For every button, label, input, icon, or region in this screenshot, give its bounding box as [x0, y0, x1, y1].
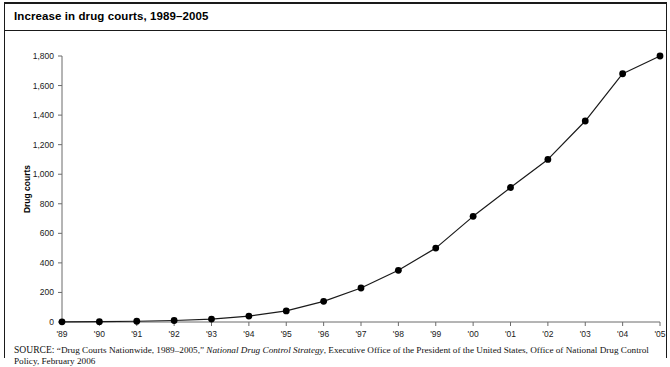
data-point-marker: [395, 267, 402, 274]
y-axis-tick-label: 400: [40, 258, 54, 268]
data-point-marker: [283, 308, 290, 315]
x-axis-tick-label: '02: [542, 329, 553, 339]
data-point-marker: [358, 285, 365, 292]
y-axis-title: Drug courts: [22, 165, 32, 213]
y-axis-tick-label: 1,200: [33, 140, 55, 150]
x-axis-tick-label: '03: [580, 329, 591, 339]
x-axis-tick-label: '01: [505, 329, 516, 339]
data-point-marker: [544, 156, 551, 163]
data-point-marker: [432, 245, 439, 252]
line-chart-svg: 02004006008001,0001,2001,4001,6001,800 '…: [0, 0, 670, 345]
data-point-marker: [619, 70, 626, 77]
data-point-marker: [96, 318, 103, 325]
x-axis-tick-label: '98: [393, 329, 404, 339]
x-axis-tick-label: '96: [318, 329, 329, 339]
x-axis-tick-label: '99: [430, 329, 441, 339]
data-point-marker: [59, 318, 66, 325]
source-publication-title: National Drug Control Strategy: [206, 345, 323, 355]
x-axis-tick-label: '05: [654, 329, 665, 339]
x-axis-tick-label: '93: [206, 329, 217, 339]
data-point-marker: [133, 318, 140, 325]
y-axis-tick-label: 1,600: [33, 81, 55, 91]
x-axis-tick-label: '95: [281, 329, 292, 339]
data-point-marker: [582, 118, 589, 125]
y-axis-tick-label: 1,000: [33, 169, 55, 179]
y-axis-tick-label: 1,400: [33, 110, 55, 120]
x-axis-tick-label: '04: [617, 329, 628, 339]
x-axis-tick-label: '97: [355, 329, 366, 339]
x-axis-tick-label: '92: [169, 329, 180, 339]
x-axis-tick-label: '91: [131, 329, 142, 339]
x-axis-tick-label: '94: [243, 329, 254, 339]
source-text-pre: “Drug Courts Nationwide, 1989–2005,”: [55, 345, 207, 355]
data-point-marker: [320, 298, 327, 305]
source-note: SOURCE: “Drug Courts Nationwide, 1989–20…: [14, 344, 662, 367]
y-axis-tick-label: 800: [40, 199, 54, 209]
y-axis-tick-label: 600: [40, 228, 54, 238]
x-axis-tick-label: '89: [56, 329, 67, 339]
x-axis: '89'90'91'92'93'94'95'96'97'98'99'00'01'…: [56, 322, 665, 339]
data-point-marker: [470, 213, 477, 220]
series-line: [62, 56, 660, 322]
y-axis: 02004006008001,0001,2001,4001,6001,800: [33, 51, 62, 327]
plot-area: 02004006008001,0001,2001,4001,6001,800 '…: [0, 0, 670, 345]
x-axis-tick-label: '90: [94, 329, 105, 339]
data-point-marker: [657, 53, 664, 60]
source-label: SOURCE:: [14, 344, 55, 355]
y-axis-tick-label: 1,800: [33, 51, 55, 61]
data-point-marker: [208, 316, 215, 323]
x-axis-tick-label: '00: [468, 329, 479, 339]
data-point-marker: [245, 313, 252, 320]
y-axis-tick-label: 200: [40, 287, 54, 297]
data-point-marker: [171, 317, 178, 324]
y-axis-tick-label: 0: [49, 317, 54, 327]
source-text-post: , Executive Office of the President of t…: [324, 345, 598, 355]
data-series-drug-courts: [59, 53, 664, 326]
data-point-marker: [507, 184, 514, 191]
